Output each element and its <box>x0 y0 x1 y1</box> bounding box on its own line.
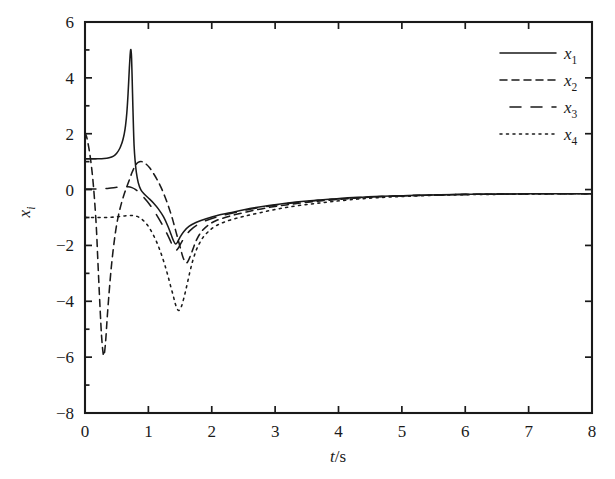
x-tick-label: 5 <box>398 422 407 441</box>
chart-legend: x1x2x3x4 <box>500 44 578 147</box>
legend-label-1: x1 <box>563 44 578 66</box>
y-tick-label: −2 <box>56 236 74 255</box>
data-series-group <box>85 50 592 356</box>
x-axis-ticks <box>148 22 528 413</box>
legend-label-2: x2 <box>563 71 578 93</box>
x-tick-label: 8 <box>588 422 597 441</box>
x-tick-label: 0 <box>81 422 90 441</box>
y-tick-label: 0 <box>66 181 75 200</box>
x-axis-tick-labels: 012345678 <box>81 422 597 441</box>
y-tick-label: −8 <box>56 404 74 423</box>
chart-figure: 012345678 6420−2−4−6−8 x1x2x3x4 t/s xi <box>0 0 615 479</box>
x-tick-label: 3 <box>271 422 280 441</box>
legend-label-4: x4 <box>563 125 578 147</box>
legend-label-3: x3 <box>563 98 578 120</box>
y-axis-tick-labels: 6420−2−4−6−8 <box>56 13 75 423</box>
svg-text:xi: xi <box>15 207 37 219</box>
y-tick-label: −4 <box>56 292 75 311</box>
x-axis-title: t/s <box>330 447 346 466</box>
y-tick-label: 4 <box>66 69 75 88</box>
y-tick-label: 6 <box>66 13 75 32</box>
y-axis-title: xi <box>15 207 37 219</box>
x-tick-label: 2 <box>208 422 217 441</box>
x-tick-label: 6 <box>461 422 470 441</box>
x-tick-label: 1 <box>144 422 153 441</box>
series-line-x3 <box>85 187 592 251</box>
x-tick-label: 4 <box>334 422 343 441</box>
y-tick-label: −6 <box>56 348 74 367</box>
y-axis-ticks <box>85 50 592 385</box>
svg-text:t/s: t/s <box>330 447 346 466</box>
x-tick-label: 7 <box>524 422 533 441</box>
series-line-x1 <box>85 50 592 244</box>
chart-canvas: 012345678 6420−2−4−6−8 x1x2x3x4 t/s xi <box>0 0 615 479</box>
y-tick-label: 2 <box>66 125 75 144</box>
series-line-x2 <box>85 132 592 355</box>
series-line-x4 <box>85 194 592 311</box>
